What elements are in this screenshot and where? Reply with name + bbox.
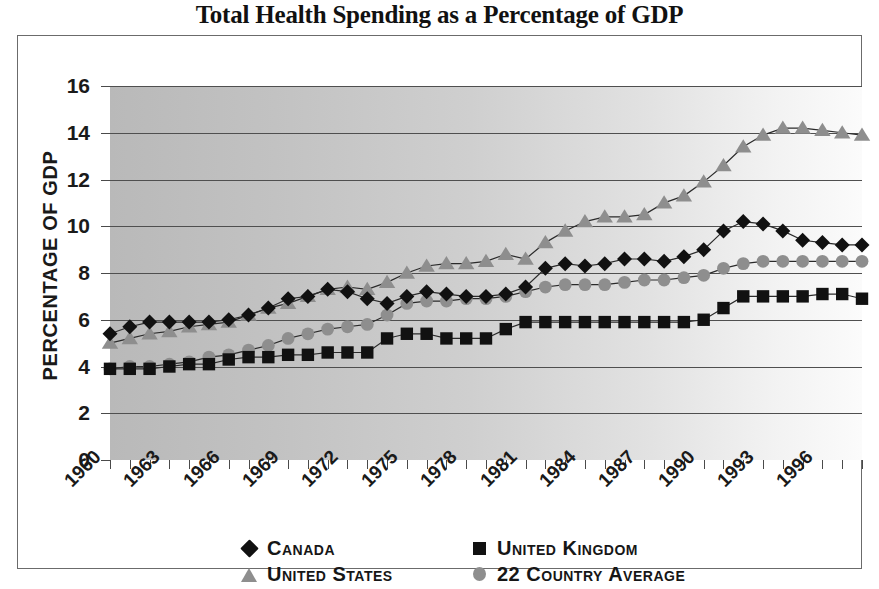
data-point-triangle	[636, 207, 652, 220]
y-axis-tick	[101, 413, 110, 414]
data-point-circle	[658, 274, 671, 287]
data-point-square	[341, 346, 353, 358]
legend-item-label: Canada	[267, 537, 335, 560]
data-point-square	[559, 316, 571, 328]
data-point-square	[361, 346, 373, 358]
data-point-diamond	[815, 235, 830, 250]
data-point-diamond	[775, 223, 790, 238]
y-axis-tick	[101, 180, 110, 181]
data-point-diamond	[380, 296, 395, 311]
data-point-circle	[697, 269, 710, 282]
x-axis-tick	[822, 460, 823, 469]
data-point-circle	[856, 255, 869, 268]
data-point-circle	[598, 278, 611, 291]
data-point-triangle	[695, 174, 711, 187]
legend-item: Canada	[240, 537, 470, 560]
diamond-icon	[240, 539, 258, 557]
legend-item-label: United Kingdom	[497, 537, 638, 560]
circle-icon	[470, 565, 488, 583]
data-point-circle	[776, 255, 789, 268]
data-point-square	[321, 346, 333, 358]
data-point-circle	[717, 262, 730, 275]
series-line	[110, 128, 862, 343]
data-point-diamond	[795, 233, 810, 248]
data-point-triangle	[656, 195, 672, 208]
data-point-diamond	[122, 319, 137, 334]
data-point-circle	[796, 255, 809, 268]
data-point-square	[638, 316, 650, 328]
x-axis-tick	[763, 460, 764, 469]
data-point-circle	[677, 271, 690, 284]
data-point-circle	[559, 278, 572, 291]
data-point-diamond	[340, 284, 355, 299]
data-point-diamond	[756, 216, 771, 231]
data-point-circle	[618, 276, 631, 289]
data-point-diamond	[281, 291, 296, 306]
data-point-square	[143, 363, 155, 375]
data-point-circle	[757, 255, 770, 268]
data-point-square	[796, 290, 808, 302]
data-point-square	[183, 358, 195, 370]
chart-figure: Total Health Spending as a Percentage of…	[0, 0, 879, 589]
data-point-circle	[262, 339, 275, 352]
legend-item-label: United States	[267, 563, 393, 586]
data-point-circle	[282, 332, 295, 345]
data-point-square	[519, 316, 531, 328]
data-point-diamond	[162, 315, 177, 330]
data-point-diamond	[657, 254, 672, 269]
data-point-square	[836, 288, 848, 300]
x-axis-tick	[169, 460, 170, 469]
legend-item: 22 Country Average	[470, 563, 760, 586]
data-point-square	[539, 316, 551, 328]
data-point-diamond	[597, 256, 612, 271]
triangle-icon	[240, 565, 258, 583]
data-point-diamond	[676, 249, 691, 264]
data-point-diamond	[855, 237, 870, 252]
data-point-circle	[737, 257, 750, 270]
data-point-square	[104, 363, 116, 375]
data-point-circle	[539, 281, 552, 294]
legend-item-label: 22 Country Average	[497, 563, 685, 586]
square-icon	[470, 539, 488, 557]
legend-item: United Kingdom	[470, 537, 760, 560]
data-point-diamond	[736, 214, 751, 229]
legend-item: United States	[240, 563, 470, 586]
data-point-triangle	[775, 120, 791, 133]
y-axis-tick	[101, 86, 110, 87]
plot-area	[110, 86, 862, 460]
series-layer	[110, 86, 862, 460]
data-point-square	[480, 332, 492, 344]
data-point-square	[282, 349, 294, 361]
y-axis-tick	[101, 320, 110, 321]
x-axis-tick	[644, 460, 645, 469]
data-point-square	[757, 290, 769, 302]
data-point-square	[420, 328, 432, 340]
data-point-triangle	[478, 254, 494, 267]
data-point-square	[579, 316, 591, 328]
data-point-circle	[361, 318, 374, 331]
data-point-diamond	[419, 284, 434, 299]
x-axis-tick	[288, 460, 289, 469]
data-point-diamond	[142, 315, 157, 330]
x-axis-tick	[466, 460, 467, 469]
x-axis-tick	[110, 460, 111, 469]
data-point-square	[678, 316, 690, 328]
data-point-square	[618, 316, 630, 328]
data-point-square	[124, 363, 136, 375]
chart-legend: CanadaUnited KingdomUnited States22 Coun…	[240, 535, 760, 587]
data-point-square	[262, 351, 274, 363]
data-point-triangle	[438, 256, 454, 269]
data-point-square	[381, 332, 393, 344]
data-point-square	[816, 288, 828, 300]
data-point-square	[242, 351, 254, 363]
data-point-triangle	[735, 139, 751, 152]
data-point-square	[203, 358, 215, 370]
x-axis-tick	[842, 460, 843, 469]
series-united-states	[102, 120, 870, 348]
data-point-circle	[321, 323, 334, 336]
data-point-square	[302, 349, 314, 361]
data-point-diamond	[617, 251, 632, 266]
x-axis-tick	[704, 460, 705, 469]
data-point-triangle	[399, 265, 415, 278]
data-point-circle	[301, 327, 314, 340]
